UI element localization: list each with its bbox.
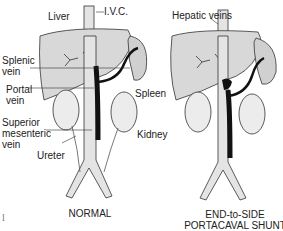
label-hepatic-veins: Hepatic veins bbox=[172, 10, 232, 21]
label-portal-line2: vein bbox=[6, 95, 32, 106]
label-liver: Liver bbox=[48, 11, 70, 22]
margin-mark: l bbox=[2, 212, 5, 223]
caption-shunt-line2: PORTACAVAL SHUNT bbox=[180, 220, 283, 231]
spleen bbox=[128, 36, 147, 80]
label-splenic-vein: Splenic vein bbox=[2, 55, 35, 77]
label-smv-line2: mesenteric bbox=[2, 128, 51, 139]
caption-normal: NORMAL bbox=[60, 208, 120, 219]
label-spleen: Spleen bbox=[135, 88, 166, 99]
label-splenic-line2: vein bbox=[2, 66, 35, 77]
portal-vein bbox=[96, 66, 98, 140]
label-splenic-line1: Splenic bbox=[2, 55, 35, 66]
spleen-shunt bbox=[254, 38, 276, 84]
shunt-diagram bbox=[171, 10, 276, 200]
left-kidney-shunt bbox=[185, 92, 211, 132]
label-kidney: Kidney bbox=[137, 129, 168, 140]
anatomy-illustration bbox=[0, 0, 283, 231]
label-ureter: Ureter bbox=[37, 150, 65, 161]
caption-shunt-line1: END-to-SIDE bbox=[180, 209, 283, 220]
label-portal-vein: Portal vein bbox=[6, 84, 32, 106]
label-smv-line3: vein bbox=[2, 139, 51, 150]
liver-shunt bbox=[171, 31, 261, 100]
label-smv-line1: Superior bbox=[2, 117, 51, 128]
right-kidney bbox=[111, 92, 137, 132]
left-kidney bbox=[53, 90, 79, 130]
label-ivc: I.V.C. bbox=[104, 6, 128, 17]
caption-shunt: END-to-SIDE PORTACAVAL SHUNT bbox=[180, 209, 283, 231]
normal-diagram bbox=[40, 6, 147, 198]
label-superior-mesenteric-vein: Superior mesenteric vein bbox=[2, 117, 51, 150]
label-portal-line1: Portal bbox=[6, 84, 32, 95]
right-kidney-shunt bbox=[239, 94, 265, 134]
portal-vein-shunt bbox=[228, 90, 230, 158]
